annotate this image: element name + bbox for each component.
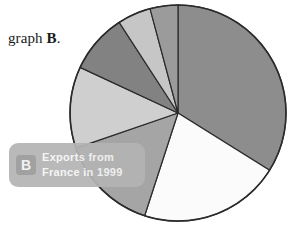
chart-caption-pill: B Exports from France in 1999	[9, 143, 145, 187]
body-text-emphasis: B	[47, 30, 57, 46]
body-text-suffix: .	[57, 30, 61, 46]
pie-slice-group	[70, 5, 286, 221]
body-text-prefix: graph	[8, 30, 47, 46]
caption-line-1: Exports from	[42, 150, 123, 165]
caption-line-2: France in 1999	[42, 165, 123, 180]
caption-badge-letter: B	[16, 155, 36, 175]
page-root: graph B. B Exports from France in 1999	[0, 0, 296, 235]
caption-text: Exports from France in 1999	[42, 150, 123, 180]
body-text-fragment: graph B.	[8, 30, 60, 47]
